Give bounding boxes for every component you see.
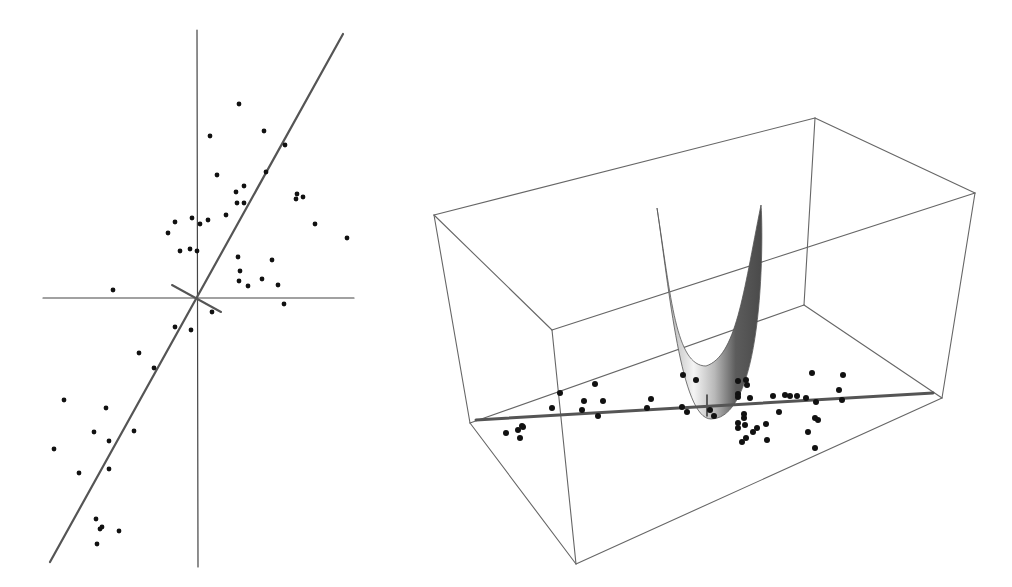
figure-svg [0,0,1012,587]
box-edge [470,423,576,564]
data-point [94,517,99,522]
data-point [104,406,109,411]
data-point [111,288,116,293]
right-3d-panel [434,118,975,564]
data-point [195,249,200,254]
data-point [236,255,241,260]
data-point [173,220,178,225]
data-point [237,102,242,107]
data-point-3d [815,417,821,423]
data-point [345,236,350,241]
data-point [206,218,211,223]
data-point-3d [747,395,753,401]
box-edge [804,118,815,305]
data-point-3d [644,405,650,411]
data-point [198,222,203,227]
data-point-3d [743,377,749,383]
data-point-3d [782,392,788,398]
data-point [234,190,239,195]
data-point-3d [680,372,686,378]
box-edge [552,193,975,330]
data-point-3d [735,378,741,384]
data-point-3d [744,382,750,388]
data-point-3d [750,429,756,435]
data-point-3d [693,377,699,383]
data-point-3d [805,429,811,435]
data-point-3d [735,425,741,431]
data-point-3d [600,398,606,404]
left-axes [43,30,354,567]
data-point-3d [742,422,748,428]
data-point-3d [592,381,598,387]
data-point-3d [840,372,846,378]
data-point [294,197,299,202]
data-point [210,310,215,315]
box-edge [942,193,975,398]
data-point [137,351,142,356]
figure-canvas [0,0,1012,587]
data-point [301,195,306,200]
box-edge [552,330,576,564]
data-point-3d [741,415,747,421]
data-point [107,467,112,472]
data-point-3d [711,413,717,419]
data-point-3d [739,439,745,445]
data-point-3d [812,445,818,451]
box-edge [434,215,470,423]
data-point [52,447,57,452]
data-point [283,143,288,148]
data-point-3d [684,409,690,415]
data-point [238,269,243,274]
box-edge [576,398,942,564]
data-point [260,277,265,282]
data-point [235,201,240,206]
data-point-3d [839,397,845,403]
box-edge [815,118,975,193]
data-point [95,542,100,547]
data-point [242,184,247,189]
data-point [242,201,247,206]
data-point-3d [519,423,525,429]
box-edge [434,215,552,330]
data-point [132,429,137,434]
data-point-3d [503,430,509,436]
data-point [313,222,318,227]
data-point-3d [787,393,793,399]
data-point-3d [770,393,776,399]
data-point [282,302,287,307]
data-point [173,325,178,330]
data-point [107,439,112,444]
data-point [178,249,183,254]
left-scatter-panel [43,30,354,567]
data-point [237,279,242,284]
data-point [62,398,67,403]
data-point [262,129,267,134]
data-point [98,527,103,532]
data-point [215,173,220,178]
data-point [188,247,193,252]
data-point [246,284,251,289]
data-point-3d [809,370,815,376]
data-point-3d [648,396,654,402]
data-point-3d [549,405,555,411]
data-point-3d [763,421,769,427]
data-point [152,366,157,371]
data-point [190,216,195,221]
data-point-3d [764,437,770,443]
data-point-3d [776,409,782,415]
data-point-3d [679,404,685,410]
data-point-3d [803,395,809,401]
box-edge [804,305,942,398]
data-point [117,529,122,534]
data-point [92,430,97,435]
data-point-3d [836,387,842,393]
data-point [224,213,229,218]
data-point-3d [579,407,585,413]
data-point [270,258,275,263]
data-point-3d [557,390,563,396]
data-point-3d [595,413,601,419]
data-point-3d [581,398,587,404]
data-point-3d [517,435,523,441]
data-point-3d [794,393,800,399]
box-edge [434,118,815,215]
